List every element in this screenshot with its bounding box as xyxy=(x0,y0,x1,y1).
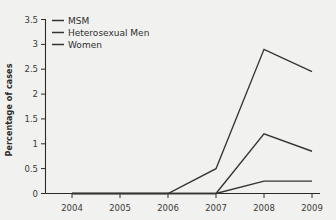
y-tick-label-0: 0 xyxy=(33,189,38,199)
legend-label-msm: MSM xyxy=(68,16,89,26)
y-tick-label-5: 2.5 xyxy=(24,64,38,74)
x-tick-label-0: 2004 xyxy=(61,203,83,213)
y-tick-label-4: 2 xyxy=(33,89,38,99)
x-tick-label-4: 2008 xyxy=(253,203,275,213)
y-axis-title: Percentage of cases xyxy=(5,63,14,156)
chart-background xyxy=(0,0,336,220)
y-tick-label-1: 0.5 xyxy=(24,164,38,174)
y-tick-label-6: 3 xyxy=(33,39,38,49)
legend-label-women: Women xyxy=(68,40,102,50)
x-tick-label-2: 2006 xyxy=(157,203,179,213)
legend-label-heterosexual-men: Heterosexual Men xyxy=(68,28,149,38)
line-chart: 0 0.5 1 1.5 2 2.5 3 3.5 Percentage of ca… xyxy=(0,0,336,220)
y-tick-label-3: 1.5 xyxy=(24,114,38,124)
y-tick-label-7: 3.5 xyxy=(24,15,38,25)
x-tick-label-1: 2005 xyxy=(109,203,131,213)
x-tick-label-3: 2007 xyxy=(205,203,227,213)
chart-canvas: 0 0.5 1 1.5 2 2.5 3 3.5 Percentage of ca… xyxy=(0,0,336,220)
y-tick-label-2: 1 xyxy=(33,139,38,149)
x-tick-label-5: 2009 xyxy=(301,203,323,213)
